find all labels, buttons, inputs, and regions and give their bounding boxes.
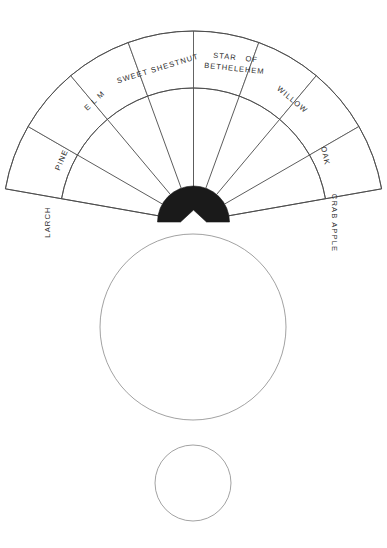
fan-spoke-inner [148, 96, 182, 188]
circle-group [100, 234, 286, 521]
large-circle[interactable] [100, 234, 286, 420]
fan-label-larch: LARCH [43, 206, 52, 237]
tree-wheel-diagram: LARCHPINEE L MSWEET SHESTNUTSTAR OFBETHE… [0, 0, 387, 548]
fan-spoke-inner [225, 155, 310, 204]
diagram-canvas: LARCHPINEE L MSWEET SHESTNUTSTAR OFBETHE… [0, 0, 387, 548]
fan-spoke-inner [107, 119, 170, 194]
fan-spoke-edge [5, 189, 158, 216]
small-circle[interactable] [155, 445, 231, 521]
fan-spoke-edge [229, 189, 382, 216]
fan-spoke-inner [206, 96, 240, 188]
fan-label-crab-apple: CRAB APPLE [330, 194, 339, 252]
fan-spoke-inner [217, 119, 280, 194]
fan-spoke-inner [77, 155, 162, 204]
